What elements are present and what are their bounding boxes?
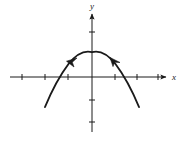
x-axis: x (10, 72, 176, 82)
right-direction-arrowhead (110, 58, 120, 67)
direction-arrow-right (110, 58, 120, 67)
coordinate-plane-svg: x y (0, 0, 184, 144)
y-axis-label: y (89, 1, 94, 11)
y-axis: y (89, 1, 95, 132)
graph-figure: x y (0, 0, 184, 144)
x-axis-label: x (171, 72, 176, 82)
